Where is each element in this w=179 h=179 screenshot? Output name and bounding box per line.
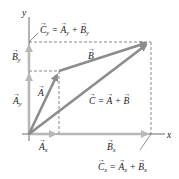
c-equation-label: C = A + B <box>89 97 129 107</box>
a-label: A <box>38 89 44 99</box>
b-label: B <box>88 52 94 62</box>
vector-diagram: y x Cy = Ay + By By Ay A B C = A + B Ax … <box>0 0 179 179</box>
ay-label: Ay <box>13 97 22 108</box>
y-axis-label: y <box>22 9 26 19</box>
ax-label: Ax <box>39 143 48 154</box>
x-axis-label: x <box>167 131 171 141</box>
bx-label: Bx <box>107 143 116 154</box>
cx-equation-label: Cx = Ax + Bx <box>98 163 147 174</box>
vector-B <box>59 43 146 71</box>
by-label: By <box>12 53 21 64</box>
cy-equation-label: Cy = Ay + By <box>40 26 89 37</box>
